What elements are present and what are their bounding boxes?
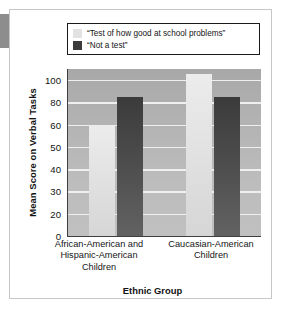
x-category-label-line: Children <box>155 250 267 261</box>
plot-area <box>67 69 261 237</box>
legend-entry-not-a-test: “Not a test” <box>73 39 255 51</box>
y-tick-label: 30 <box>50 186 61 197</box>
y-axis-tick-labels: 1008060504030200 <box>40 69 64 236</box>
x-category-label-line: Caucasian-American <box>155 239 267 250</box>
y-tick-label: 80 <box>50 97 61 108</box>
legend-label-not-a-test: “Not a test” <box>87 40 128 51</box>
y-axis-title: Mean Score on Verbal Tasks <box>24 69 40 236</box>
legend-entry-test: “Test of how good at school problems” <box>73 27 255 39</box>
x-category-label-line: African-American and <box>43 239 155 250</box>
legend-swatch-not-a-test <box>73 41 82 50</box>
x-axis-title: Ethnic Group <box>40 285 265 296</box>
legend-label-test: “Test of how good at school problems” <box>87 28 225 39</box>
y-tick-label: 20 <box>50 208 61 219</box>
x-category-label: Caucasian-AmericanChildren <box>155 239 267 273</box>
legend-swatch-test <box>73 29 82 38</box>
y-tick-label: 50 <box>50 141 61 152</box>
gridline <box>68 80 261 81</box>
bar <box>214 97 240 236</box>
chart-legend: “Test of how good at school problems” “N… <box>67 23 260 55</box>
x-category-label-line: Children <box>43 262 155 273</box>
x-category-label: African-American andHispanic-AmericanChi… <box>43 239 155 273</box>
bar <box>117 97 143 236</box>
y-tick-label: 60 <box>50 119 61 130</box>
bar <box>186 74 212 236</box>
y-tick-label: 100 <box>45 75 61 86</box>
figure-frame: “Test of how good at school problems” “N… <box>9 9 272 299</box>
x-category-label-line: Hispanic-American <box>43 250 155 261</box>
y-axis-title-text: Mean Score on Verbal Tasks <box>27 88 38 217</box>
bar <box>89 125 115 236</box>
x-axis-category-labels: African-American andHispanic-AmericanChi… <box>43 239 267 273</box>
y-tick-label: 40 <box>50 164 61 175</box>
